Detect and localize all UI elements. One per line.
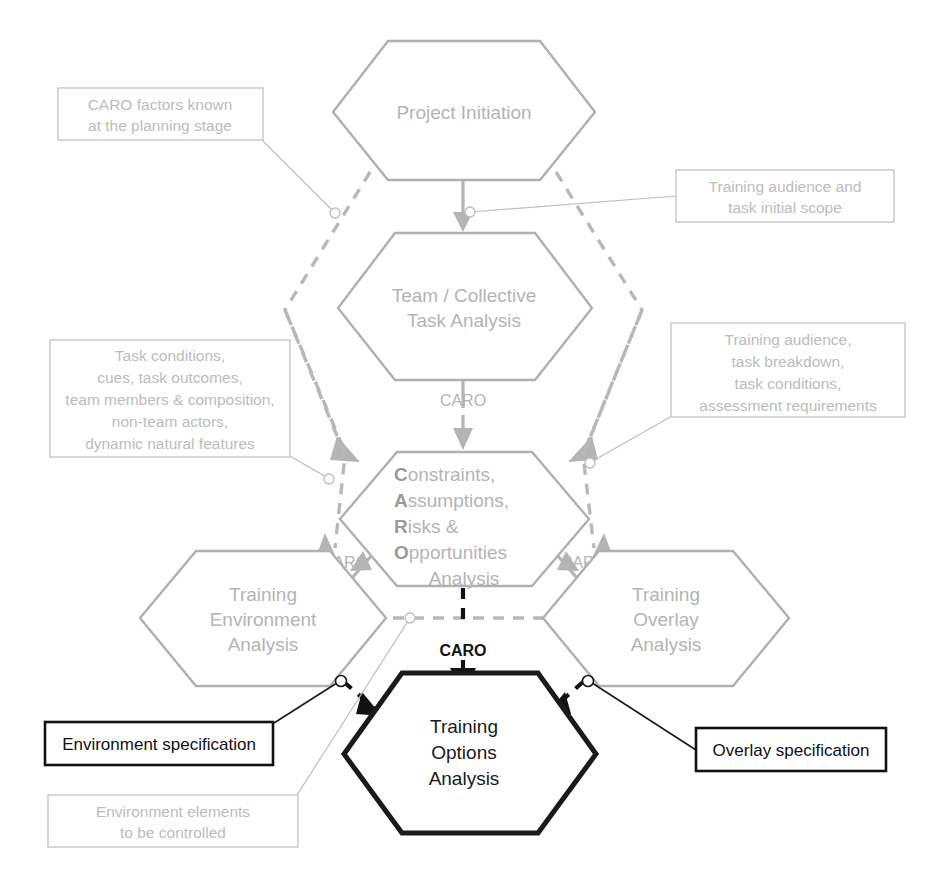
callout-line-2: cues, task outcomes, (97, 369, 243, 386)
callout-line-1: Task conditions, (115, 347, 225, 364)
node-project-initiation[interactable]: Project Initiation (333, 41, 595, 180)
node-label-team-line-1: Team / Collective (392, 285, 537, 306)
node-label-caro-line-4: Opportunities (394, 542, 507, 563)
node-label-team-line-2: Task Analysis (407, 310, 521, 331)
node-label-options-line-3: Analysis (429, 768, 500, 789)
caro-rest-o: pportunities (409, 542, 507, 563)
callout-line-4: non-team actors, (112, 413, 228, 430)
node-label-caro-line-3: Risks & (394, 516, 459, 537)
callout-line-3: team members & composition, (65, 391, 274, 408)
connector-dot (585, 458, 595, 468)
connector-dot (583, 676, 594, 687)
connector-dot (465, 207, 475, 217)
edge-label-caro-center: CARO (439, 642, 486, 659)
node-training-environment-analysis[interactable]: Training Environment Analysis (140, 551, 386, 686)
node-caro-analysis[interactable]: Constraints, Assumptions, Risks & Opport… (340, 452, 589, 589)
node-label-project-initiation: Project Initiation (396, 102, 531, 123)
edge-team-to-caro: CARO (440, 378, 486, 450)
node-label-overlay-line-1: Training (632, 584, 700, 605)
connector-dot (405, 613, 415, 623)
callout-task-conditions-cues[interactable]: Task conditions, cues, task outcomes, te… (50, 340, 334, 484)
caro-initial-r: R (394, 516, 408, 537)
connector-dot (330, 208, 340, 218)
callout-line-1: CARO factors known (88, 96, 233, 113)
node-team-collective-task-analysis[interactable]: Team / Collective Task Analysis (338, 233, 592, 380)
callout-caro-factors-known[interactable]: CARO factors known at the planning stage (58, 88, 340, 218)
arrowhead (453, 428, 473, 450)
node-label-environment-line-3: Analysis (228, 634, 299, 655)
node-label-caro-line-5: Analysis (429, 568, 500, 589)
callout-line-5: dynamic natural features (85, 435, 255, 452)
callout-line-4: assessment requirements (699, 397, 877, 414)
callout-training-audience-task-breakdown[interactable]: Training audience, task breakdown, task … (585, 323, 905, 468)
node-label-overlay-line-3: Analysis (631, 634, 702, 655)
spec-label: Overlay specification (713, 741, 870, 760)
callout-line-2: task initial scope (728, 199, 842, 216)
callout-line-2: task breakdown, (732, 353, 845, 370)
callout-line-2: at the planning stage (88, 117, 232, 134)
caro-initial-o: O (394, 542, 409, 563)
node-training-overlay-analysis[interactable]: Training Overlay Analysis (543, 551, 789, 686)
node-label-overlay-line-2: Overlay (633, 609, 699, 630)
caro-initial-a: A (394, 490, 408, 511)
callout-line-3: task conditions, (735, 375, 842, 392)
callout-line-1: Training audience and (709, 178, 862, 195)
connector-dot (336, 676, 347, 687)
caro-rest-r: isks & (408, 516, 459, 537)
node-label-caro-line-1: Constraints, (394, 464, 495, 485)
arrowhead (330, 436, 360, 462)
callout-line-1: Training audience, (725, 331, 852, 348)
caro-rest-a: ssumptions, (408, 490, 509, 511)
node-label-caro-line-2: Assumptions, (394, 490, 509, 511)
node-label-environment-line-2: Environment (210, 609, 317, 630)
spec-environment-specification[interactable]: Environment specification (45, 676, 347, 766)
arrowhead (568, 436, 598, 462)
callout-line-1: Environment elements (96, 803, 250, 820)
caro-process-diagram: CARO CARO CARO CARO Project Initiation (0, 0, 926, 881)
caro-rest-c: onstraints, (408, 464, 496, 485)
edge-label-caro-top: CARO (440, 392, 486, 409)
node-label-environment-line-1: Training (229, 584, 297, 605)
spec-label: Environment specification (62, 735, 256, 754)
node-label-options-line-2: Options (431, 742, 496, 763)
node-label-options-line-1: Training (430, 716, 498, 737)
caro-initial-c: C (394, 464, 408, 485)
callout-line-2: to be controlled (120, 824, 226, 841)
spec-overlay-specification[interactable]: Overlay specification (583, 676, 887, 772)
edge-initiation-to-team (453, 178, 473, 232)
node-training-options-analysis[interactable]: Training Options Analysis (344, 673, 596, 833)
connector-dot (324, 474, 334, 484)
